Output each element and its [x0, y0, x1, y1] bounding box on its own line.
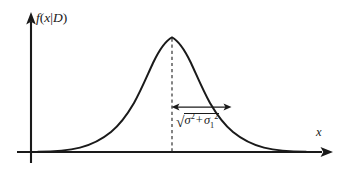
- sqrt-expression: √σ2+σ12: [176, 112, 219, 128]
- y-axis-label-d: D: [53, 10, 63, 25]
- gaussian-density-figure: f(x|D) x √σ2+σ12: [0, 0, 344, 173]
- y-axis-label-close-paren: ): [63, 10, 68, 25]
- sigma-term-2-subscript: 1: [210, 121, 214, 130]
- radical-sign-icon: √: [176, 113, 184, 130]
- figure-canvas: [0, 0, 344, 173]
- sigma-formula-label: √σ2+σ12: [176, 112, 219, 128]
- plus-operator: +: [195, 113, 204, 127]
- x-axis-label: x: [316, 126, 322, 139]
- radicand: σ2+σ12: [184, 113, 220, 127]
- sigma-term-2-exponent: 2: [214, 112, 218, 121]
- x-axis-arrow-icon: [321, 147, 334, 157]
- y-axis-label: f(x|D): [36, 11, 67, 25]
